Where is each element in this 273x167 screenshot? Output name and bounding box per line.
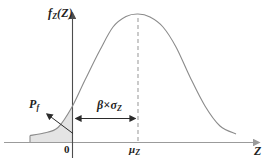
pdf-curve xyxy=(30,14,236,136)
beta-sigma-base: β×σ xyxy=(97,98,117,112)
x-axis-label: Z xyxy=(254,145,262,157)
diagram-canvas xyxy=(0,0,273,167)
y-axis-label-arg: (Z) xyxy=(57,6,73,20)
reliability-index-diagram: fZ(Z) Pf β×σZ 0 μZ Z xyxy=(0,0,273,167)
origin-tick-label: 0 xyxy=(64,144,70,155)
pf-base: P xyxy=(29,97,37,111)
mean-tick-label: μZ xyxy=(129,144,140,157)
pf-sub: f xyxy=(37,103,40,112)
beta-sigma-sub: Z xyxy=(117,104,122,113)
failure-region-shade xyxy=(30,14,236,143)
beta-sigma-label: β×σZ xyxy=(97,99,122,113)
y-axis-label: fZ(Z) xyxy=(48,7,73,21)
failure-probability-label: Pf xyxy=(29,98,39,112)
mean-sub: Z xyxy=(135,148,140,157)
